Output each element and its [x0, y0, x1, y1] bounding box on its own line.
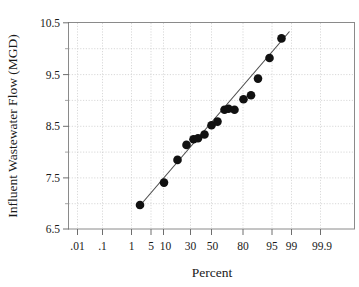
x-tick-label: .1	[98, 240, 107, 252]
data-point	[230, 105, 239, 114]
data-point	[239, 95, 248, 104]
x-tick-label: 99	[286, 240, 298, 252]
data-point	[254, 74, 263, 83]
data-point	[182, 141, 191, 150]
data-point	[200, 130, 209, 139]
y-tick-label: 10.5	[40, 17, 60, 29]
x-tick-label: 30	[185, 240, 197, 252]
x-tick-label: 80	[237, 240, 249, 252]
x-axis-ticks	[78, 229, 321, 235]
y-tick-label: 9.5	[46, 69, 61, 81]
x-axis-title: Percent	[192, 265, 233, 280]
x-tick-label: 95	[266, 240, 278, 252]
x-tick-label: .01	[70, 240, 85, 252]
data-point	[247, 91, 256, 100]
data-points	[136, 34, 286, 209]
data-point	[136, 201, 145, 210]
y-axis-title: Influent Wastewater Flow (MGD)	[5, 34, 20, 218]
probability-plot: Influent Wastewater Flow (MGD) Percent	[0, 0, 359, 287]
y-tick-label: 6.5	[46, 223, 61, 235]
data-point	[160, 178, 169, 187]
y-axis-tick-labels: 10.5 9.5 8.5 7.5 6.5	[40, 17, 60, 235]
x-tick-label: 5	[148, 240, 154, 252]
x-tick-label: 99.9	[312, 240, 332, 252]
vertical-gridlines	[78, 23, 321, 229]
x-tick-label: 10	[160, 240, 172, 252]
chart-canvas: Influent Wastewater Flow (MGD) Percent	[0, 0, 359, 287]
data-point	[173, 156, 182, 165]
y-tick-label: 7.5	[46, 172, 61, 184]
data-point	[213, 117, 222, 126]
data-point	[277, 34, 286, 43]
x-tick-label: 1	[129, 240, 135, 252]
x-tick-label: 50	[207, 240, 219, 252]
data-point	[265, 54, 274, 63]
x-axis-tick-labels: .01 .1 1 5 10 30 50 80 95 99 99.9	[70, 240, 332, 252]
y-tick-label: 8.5	[46, 120, 61, 132]
